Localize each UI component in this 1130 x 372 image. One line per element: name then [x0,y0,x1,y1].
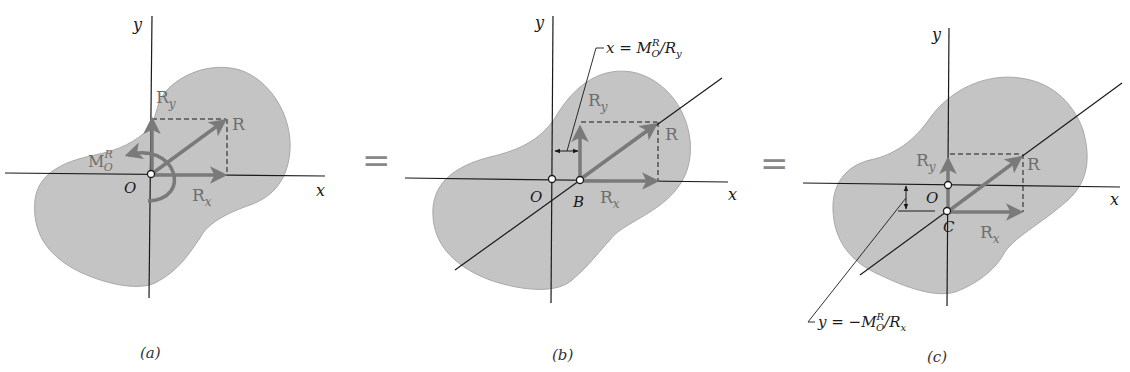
origin-label: O [124,179,136,197]
resultant-diagram: y x Ry R Rx MRO O (a) = y x x = MRO/Ry [0,0,1130,372]
moment-label: MRO [88,148,113,174]
dimension-formula-y: y = −MRO/Rx [817,311,907,333]
dimension-formula-x: x = MRO/Ry [606,37,682,59]
origin-point [549,176,556,183]
origin-point [148,171,155,178]
panel-a: y x Ry R Rx MRO O (a) [5,15,325,362]
caption-a: (a) [140,344,161,362]
origin-label: O [530,188,542,206]
origin-point [945,182,952,189]
r-label: R [232,114,246,134]
y-axis-label: y [132,15,143,34]
y-axis-label: y [534,13,545,32]
x-axis-label: x [1110,190,1119,209]
panel-b: y x x = MRO/Ry Ry R Rx O B (b) [405,13,737,364]
point-b [577,177,584,184]
caption-c: (c) [927,348,947,366]
point-b-label: B [572,193,584,211]
r-label: R [665,124,679,144]
caption-b: (b) [552,346,573,364]
y-axis-label: y [931,25,942,44]
equals-sign-2: = [760,143,789,183]
panel-c: y x y = −MRO/Rx Ry R Rx O C (c) [803,25,1122,366]
r-label: R [1027,154,1041,174]
x-axis-label: x [728,185,737,204]
point-c [944,208,951,215]
x-axis-label: x [316,181,325,200]
point-c-label: C [943,218,955,236]
origin-label: O [926,189,938,207]
equals-sign-1: = [362,140,391,180]
